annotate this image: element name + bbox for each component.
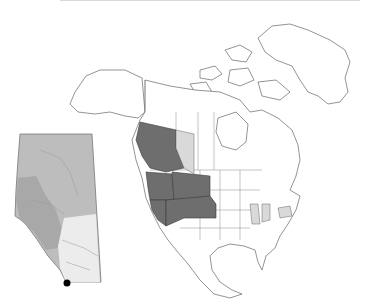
- range-illinois: [250, 204, 260, 224]
- range-washington-oregon: [146, 172, 174, 200]
- landmass-outlines: [70, 24, 350, 298]
- point-marker: [64, 280, 71, 287]
- alberta-inset: [15, 134, 101, 287]
- range-idaho-montana: [172, 172, 210, 200]
- alberta-inset-south-prairie: [58, 214, 100, 282]
- map-figure: [0, 0, 372, 308]
- north-america-map: [0, 0, 372, 308]
- alaska-shape: [70, 70, 145, 118]
- range-indiana: [262, 204, 270, 222]
- range-virginia: [278, 206, 292, 218]
